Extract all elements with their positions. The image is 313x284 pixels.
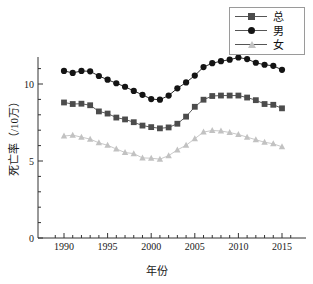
legend-swatch-triangle (233, 38, 269, 52)
y-tick-label: 5 (12, 156, 34, 167)
x-tick-label: 2000 (141, 241, 161, 252)
x-tick-label: 2015 (272, 241, 292, 252)
y-axis-title: 死亡率（/10万） (5, 71, 21, 201)
x-tick-label: 1995 (98, 241, 118, 252)
legend-label-male: 男 (269, 24, 284, 38)
legend-swatch-square (233, 10, 269, 24)
y-tick-label: 0 (12, 233, 34, 244)
legend-item-total[interactable]: 总 (233, 10, 301, 24)
x-tick-label: 1990 (54, 241, 74, 252)
chart-legend: 总 男 女 (229, 7, 305, 55)
legend-item-male[interactable]: 男 (233, 24, 301, 38)
mortality-rate-line-chart: 死亡率（/10万） 年份 199019952000200520102015051… (0, 0, 313, 284)
x-tick-label: 2005 (185, 241, 205, 252)
legend-label-total: 总 (269, 10, 284, 24)
x-axis-title: 年份 (0, 262, 313, 278)
y-tick-label: 10 (12, 79, 34, 90)
legend-swatch-circle (233, 24, 269, 38)
legend-item-female[interactable]: 女 (233, 38, 301, 52)
x-tick-label: 2010 (228, 241, 248, 252)
legend-label-female: 女 (269, 38, 284, 52)
